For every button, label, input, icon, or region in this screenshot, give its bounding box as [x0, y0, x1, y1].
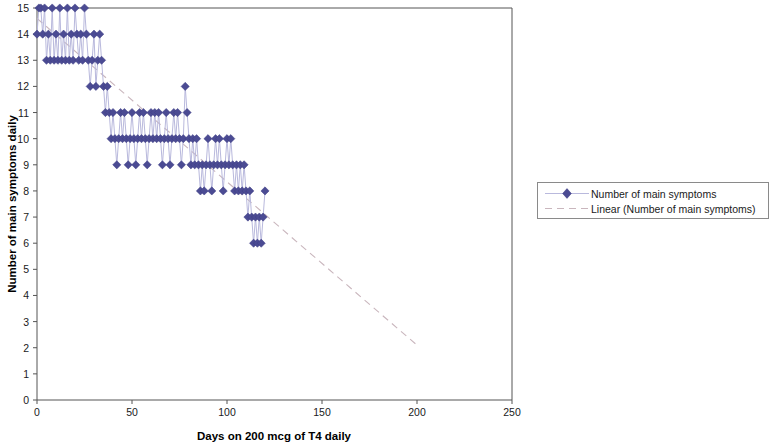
y-tick-label: 2 — [23, 342, 29, 354]
data-point-marker — [56, 4, 64, 12]
y-tick-label: 5 — [23, 263, 29, 275]
data-point-marker — [208, 187, 216, 195]
data-point-marker — [177, 161, 185, 169]
y-tick-label: 9 — [23, 159, 29, 171]
data-point-marker — [158, 161, 166, 169]
legend-marker-line-icon — [543, 187, 591, 200]
data-point-marker — [71, 4, 79, 12]
data-point-marker — [204, 135, 212, 143]
chart-canvas: 0123456789101112131415 050100150200250 D… — [0, 0, 769, 447]
x-tick-label: 200 — [408, 406, 426, 418]
axis-group — [37, 8, 512, 400]
data-point-marker — [181, 82, 189, 90]
data-point-marker — [96, 30, 104, 38]
y-tick-label: 8 — [23, 185, 29, 197]
series-line-path — [37, 8, 265, 243]
y-tick-label: 7 — [23, 211, 29, 223]
y-tick-label: 15 — [17, 2, 29, 14]
data-point-marker — [128, 108, 136, 116]
x-tick-label: 250 — [503, 406, 521, 418]
data-point-marker — [113, 161, 121, 169]
x-tick-group: 050100150200250 — [34, 400, 521, 418]
y-tick-label: 3 — [23, 316, 29, 328]
data-point-marker — [166, 161, 174, 169]
data-point-marker — [92, 82, 100, 90]
legend-label-trendline: Linear (Number of main symptoms) — [591, 203, 756, 215]
y-axis-title: Number of main symptoms daily — [6, 115, 18, 293]
y-tick-label: 0 — [23, 394, 29, 406]
data-point-marker — [219, 187, 227, 195]
y-tick-label: 10 — [17, 133, 29, 145]
x-tick-label: 50 — [126, 406, 138, 418]
legend-label-series: Number of main symptoms — [591, 188, 716, 200]
data-point-marker — [143, 161, 151, 169]
y-tick-label: 1 — [23, 368, 29, 380]
chart-legend: Number of main symptoms Linear (Number o… — [537, 182, 769, 219]
x-axis-title: Days on 200 mcg of T4 daily — [197, 430, 352, 442]
trendline-path — [37, 18, 417, 345]
data-point-marker — [80, 4, 88, 12]
data-point-marker — [162, 108, 170, 116]
x-tick-label: 0 — [34, 406, 40, 418]
chart-figure: 0123456789101112131415 050100150200250 D… — [0, 0, 769, 447]
data-point-marker — [132, 161, 140, 169]
y-tick-label: 14 — [17, 28, 29, 40]
data-point-marker — [124, 161, 132, 169]
data-point-marker — [261, 187, 269, 195]
y-tick-label: 13 — [17, 54, 29, 66]
legend-item-series: Number of main symptoms — [538, 186, 768, 201]
data-point-marker — [48, 4, 56, 12]
data-point-marker — [63, 4, 71, 12]
y-tick-group: 0123456789101112131415 — [17, 2, 37, 406]
x-tick-label: 150 — [313, 406, 331, 418]
y-tick-label: 4 — [23, 289, 29, 301]
y-tick-label: 11 — [18, 107, 29, 119]
y-tick-label: 12 — [17, 80, 29, 92]
y-tick-label: 6 — [23, 237, 29, 249]
legend-dashed-line-icon — [543, 202, 591, 215]
legend-item-trendline: Linear (Number of main symptoms) — [538, 201, 768, 216]
x-tick-label: 100 — [218, 406, 236, 418]
